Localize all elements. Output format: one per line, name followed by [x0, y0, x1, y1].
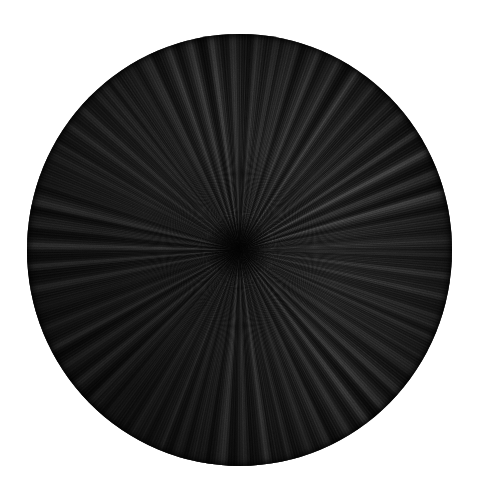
- convergence-point: [27, 34, 452, 466]
- ray-layer-fine: [27, 34, 452, 466]
- disc-density-vignette: [27, 34, 452, 466]
- ray-layer-medium: [27, 34, 452, 466]
- ray-layer-broad: [27, 34, 452, 466]
- disc-rim: [27, 34, 452, 466]
- radial-burst-disc: [27, 34, 452, 466]
- ray-layer-dark: [27, 34, 452, 466]
- disc-tonal-body: [27, 34, 452, 466]
- artwork-canvas: [0, 0, 480, 497]
- graphite-grain-overlay: [27, 34, 452, 466]
